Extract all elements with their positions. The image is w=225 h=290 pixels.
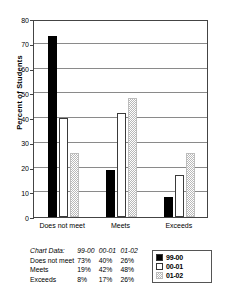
y-axis-tick-mark xyxy=(30,20,34,21)
table-cell: 42% xyxy=(99,265,121,275)
table-column-header: 99-00 xyxy=(77,246,99,256)
table-column-header: 00-01 xyxy=(99,246,121,256)
table-cell: 73% xyxy=(77,256,99,266)
y-axis-tick-mark xyxy=(30,45,34,46)
y-axis-tick-label: 50 xyxy=(11,91,29,98)
y-axis-tick-label: 60 xyxy=(11,66,29,73)
y-axis-tick-mark xyxy=(30,169,34,170)
table-header-row: Chart Data: 99-00 00-01 01-02 xyxy=(30,246,142,256)
legend-label: 99-00 xyxy=(166,254,183,261)
legend-item: 00-01 xyxy=(156,262,208,271)
table-row-label: Meets xyxy=(30,265,77,275)
bar xyxy=(175,175,184,217)
table-row-label: Exceeds xyxy=(30,275,77,285)
table-cell: 40% xyxy=(99,256,121,266)
table-row: Meets 19% 42% 48% xyxy=(30,265,142,275)
table-cell: 26% xyxy=(120,256,142,266)
table-row: Exceeds 8% 17% 26% xyxy=(30,275,142,285)
y-axis-tick-mark xyxy=(30,70,34,71)
bar xyxy=(128,98,137,217)
y-axis-tick-label: 10 xyxy=(11,190,29,197)
x-axis-tick-label: Meets xyxy=(111,222,130,229)
legend-label: 00-01 xyxy=(166,263,183,270)
chart-figure: Percent of Students 01020304050607080 Do… xyxy=(0,0,225,290)
y-axis-tick-mark xyxy=(30,144,34,145)
y-axis-tick-mark xyxy=(30,119,34,120)
bar xyxy=(59,118,68,217)
table-cell: 26% xyxy=(120,275,142,285)
chart-data-table: Chart Data: 99-00 00-01 01-02 Does not m… xyxy=(30,246,142,284)
y-axis-tick-label: 70 xyxy=(11,41,29,48)
y-axis-tick-mark xyxy=(30,193,34,194)
legend-swatch-icon xyxy=(156,272,163,279)
legend-label: 01-02 xyxy=(166,272,183,279)
y-axis-tick-label: 30 xyxy=(11,140,29,147)
table-column-header: 01-02 xyxy=(120,246,142,256)
bar xyxy=(48,36,57,217)
bar xyxy=(186,153,195,217)
bar-group xyxy=(92,21,150,217)
legend-swatch-icon xyxy=(156,254,163,261)
bar xyxy=(70,153,79,217)
bar xyxy=(106,170,115,217)
bar xyxy=(164,197,173,217)
table-cell: 8% xyxy=(77,275,99,285)
y-axis-tick-label: 80 xyxy=(11,17,29,24)
plot-area xyxy=(33,20,208,218)
table-cell: 48% xyxy=(120,265,142,275)
y-axis-tick-mark xyxy=(30,94,34,95)
bar-group xyxy=(151,21,209,217)
table-cell: 17% xyxy=(99,275,121,285)
legend-swatch-icon xyxy=(156,263,163,270)
bar xyxy=(117,113,126,217)
y-axis-tick-label: 40 xyxy=(11,116,29,123)
chart-legend: 99-00 00-01 01-02 xyxy=(152,250,212,283)
y-axis-tick-mark xyxy=(30,218,34,219)
legend-item: 99-00 xyxy=(156,253,208,262)
legend-item: 01-02 xyxy=(156,271,208,280)
y-axis-tick-label: 20 xyxy=(11,165,29,172)
y-axis-tick-label: 0 xyxy=(11,215,29,222)
x-axis-tick-label: Does not meet xyxy=(39,222,85,229)
bar-series-container xyxy=(34,21,207,217)
table-row-label: Does not meet xyxy=(30,256,77,266)
bar-group xyxy=(34,21,92,217)
x-axis-tick-label: Exceeds xyxy=(165,222,192,229)
table-caption: Chart Data: xyxy=(30,246,77,256)
table-row: Does not meet 73% 40% 26% xyxy=(30,256,142,266)
table-cell: 19% xyxy=(77,265,99,275)
